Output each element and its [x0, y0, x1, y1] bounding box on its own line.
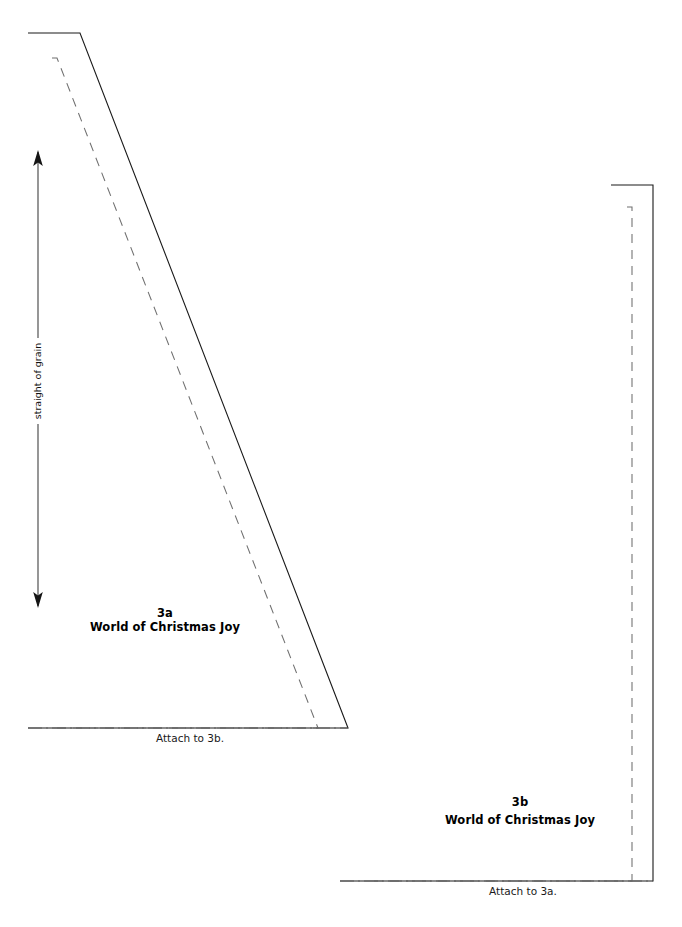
straight-of-grain-marker: straight of grain [31, 150, 45, 608]
seam-line-3b [370, 207, 632, 881]
cut-line-3b [340, 185, 653, 881]
piece-number-3b: 3b [512, 795, 528, 809]
attach-note-3a: Attach to 3b. [156, 732, 224, 744]
pattern-piece-3a: 3a World of Christmas Joy Attach to 3b. [28, 33, 348, 744]
pattern-canvas: 3a World of Christmas Joy Attach to 3b. … [0, 0, 682, 927]
pattern-page: 3a World of Christmas Joy Attach to 3b. … [0, 0, 682, 927]
grain-label: straight of grain [32, 343, 43, 419]
piece-title-3b: World of Christmas Joy [445, 813, 595, 827]
attach-note-3b: Attach to 3a. [489, 885, 557, 897]
piece-title-3a: World of Christmas Joy [90, 620, 240, 634]
pattern-piece-3b: 3b World of Christmas Joy Attach to 3a. [340, 185, 653, 897]
piece-number-3a: 3a [157, 606, 173, 620]
